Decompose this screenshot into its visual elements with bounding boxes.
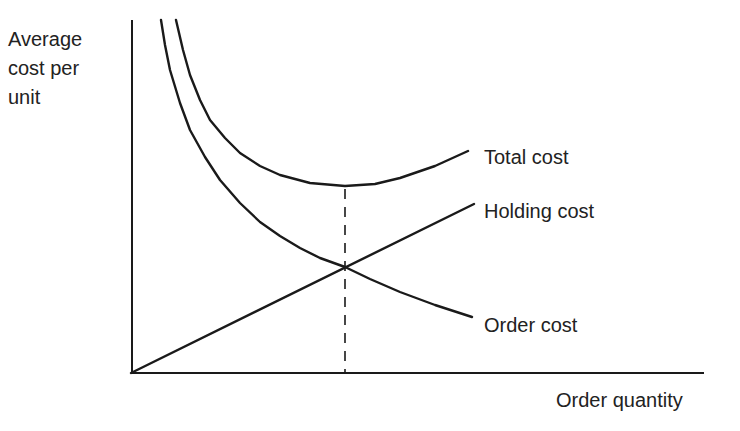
- y-axis-label-line3: unit: [8, 86, 41, 108]
- order-cost-label: Order cost: [484, 314, 578, 336]
- y-axis-label-line1: Average: [8, 28, 82, 50]
- x-axis-label: Order quantity: [556, 389, 683, 411]
- holding-cost-label: Holding cost: [484, 200, 595, 222]
- eoq-cost-diagram: Average cost per unit Total cost Holding…: [0, 0, 740, 431]
- total-cost-curve: [176, 20, 468, 186]
- y-axis-label-line2: cost per: [8, 57, 79, 79]
- total-cost-label: Total cost: [484, 146, 569, 168]
- holding-cost-line: [131, 204, 474, 373]
